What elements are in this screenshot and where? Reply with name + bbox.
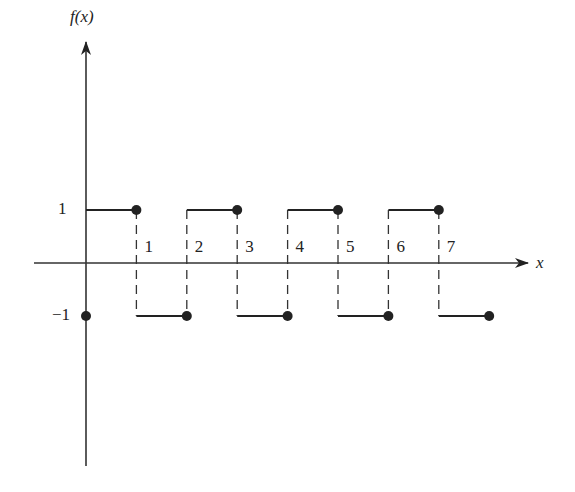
closed-dot xyxy=(333,205,343,215)
square-wave-diagram: f(x) x 1 −1 1234567 xyxy=(0,0,575,492)
closed-dot xyxy=(383,311,393,321)
x-tick-4: 4 xyxy=(296,238,305,255)
plot-canvas xyxy=(0,0,575,492)
x-tick-5: 5 xyxy=(346,238,355,255)
closed-dot xyxy=(182,311,192,321)
closed-dot xyxy=(131,205,141,215)
x-tick-6: 6 xyxy=(396,238,405,255)
closed-dot xyxy=(81,311,91,321)
x-tick-7: 7 xyxy=(447,238,456,255)
y-tick-1: 1 xyxy=(58,200,67,217)
closed-dot xyxy=(232,205,242,215)
closed-dot xyxy=(484,311,494,321)
closed-dot xyxy=(283,311,293,321)
y-axis-label: f(x) xyxy=(70,8,94,25)
x-tick-1: 1 xyxy=(144,238,153,255)
y-tick-neg1: −1 xyxy=(52,306,70,323)
x-tick-2: 2 xyxy=(195,238,204,255)
x-tick-3: 3 xyxy=(245,238,254,255)
x-axis-label: x xyxy=(536,254,544,271)
closed-dot xyxy=(434,205,444,215)
